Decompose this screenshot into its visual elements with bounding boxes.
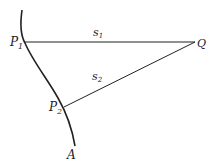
curve-a: [21, 10, 75, 146]
diagram-canvas: P1 s1 Q s2 P2 A: [0, 0, 217, 166]
label-q: Q: [197, 37, 206, 50]
label-s1: s1: [93, 26, 103, 40]
label-p1: P1: [9, 35, 23, 51]
label-curve-a: A: [66, 148, 76, 162]
segment-s2: [64, 42, 195, 107]
label-s2: s2: [92, 70, 103, 84]
